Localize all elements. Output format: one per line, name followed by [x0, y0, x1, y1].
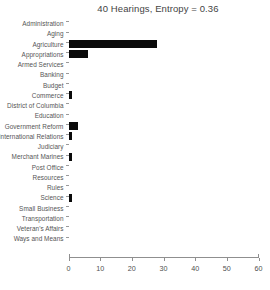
x-axis-tick: [195, 258, 196, 261]
bar: [69, 153, 72, 161]
x-axis-tick: [227, 258, 228, 261]
category-label: Appropriations: [22, 50, 64, 60]
category-tick: [66, 114, 69, 115]
x-axis-tick: [259, 258, 260, 261]
bar: [69, 40, 158, 48]
category-label: Commerce: [32, 91, 64, 101]
category-label: Agriculture: [32, 40, 63, 50]
category-label: Government Reform: [5, 122, 64, 132]
bar-row: Agriculture: [0, 40, 270, 50]
bar-row: Transportation: [0, 214, 270, 224]
x-axis-tick-label: 50: [217, 264, 237, 273]
x-axis-tick: [164, 258, 165, 261]
bar-row: Budget: [0, 81, 270, 91]
chart-title: 40 Hearings, Entropy = 0.36: [0, 3, 270, 14]
category-tick: [66, 144, 69, 145]
bar-row: Judiciary: [0, 142, 270, 152]
category-tick: [66, 32, 69, 33]
category-tick: [66, 216, 69, 217]
bar-row: Banking: [0, 70, 270, 80]
bar-row: District of Columbia: [0, 101, 270, 111]
category-label: Budget: [43, 81, 64, 91]
category-tick: [66, 62, 69, 63]
category-tick: [66, 226, 69, 227]
bar: [69, 132, 72, 140]
category-label: Administration: [22, 19, 63, 29]
category-label: Ways and Means: [14, 234, 64, 244]
bar-row: Administration: [0, 19, 270, 29]
category-label: Armed Services: [18, 60, 64, 70]
bar-row: Post Office: [0, 163, 270, 173]
category-label: Transportation: [22, 214, 64, 224]
category-label: Banking: [40, 70, 63, 80]
bar: [69, 122, 79, 130]
category-label: Rules: [47, 183, 64, 193]
x-axis-tick-label: 20: [122, 264, 142, 273]
category-label: Aging: [47, 29, 64, 39]
bar: [69, 194, 72, 202]
category-label: Post Office: [32, 163, 64, 173]
bar-row: Commerce: [0, 91, 270, 101]
bar-row: Rules: [0, 183, 270, 193]
plot-area: AdministrationAgingAgricultureAppropriat…: [0, 18, 270, 256]
bar-row: Veteran's Affairs: [0, 224, 270, 234]
x-axis-tick-label: 40: [185, 264, 205, 273]
category-tick: [66, 165, 69, 166]
bar-row: Small Business: [0, 204, 270, 214]
bar-row: International Relations: [0, 132, 270, 142]
category-label: District of Columbia: [7, 101, 63, 111]
bar-row: Appropriations: [0, 50, 270, 60]
x-axis-tick: [132, 258, 133, 261]
category-tick: [66, 175, 69, 176]
x-axis-tick: [100, 258, 101, 261]
category-tick: [66, 237, 69, 238]
x-axis-tick-label: 60: [249, 264, 269, 273]
category-tick: [66, 83, 69, 84]
category-tick: [66, 21, 69, 22]
x-axis-tick-label: 30: [154, 264, 174, 273]
x-axis-tick-label: 10: [90, 264, 110, 273]
x-axis-tick-label: 0: [59, 264, 79, 273]
bar-row: Armed Services: [0, 60, 270, 70]
category-label: Small Business: [19, 204, 63, 214]
bar-row: Resources: [0, 173, 270, 183]
bar-row: Aging: [0, 29, 270, 39]
category-tick: [66, 206, 69, 207]
category-label: Science: [40, 193, 63, 203]
bar-row: Merchant Marines: [0, 152, 270, 162]
bar-chart: 40 Hearings, Entropy = 0.36 Administrati…: [0, 0, 270, 290]
category-tick: [66, 73, 69, 74]
bar-row: Government Reform: [0, 122, 270, 132]
x-axis: 0102030405060: [0, 257, 270, 290]
bar-row: Ways and Means: [0, 234, 270, 244]
category-label: Resources: [33, 173, 64, 183]
bar: [69, 50, 88, 58]
bar: [69, 91, 72, 99]
category-label: Veteran's Affairs: [17, 224, 64, 234]
category-label: Education: [35, 111, 64, 121]
category-tick: [66, 103, 69, 104]
bar-row: Science: [0, 193, 270, 203]
category-tick: [66, 185, 69, 186]
category-label: Merchant Marines: [12, 152, 64, 162]
x-axis-tick: [69, 258, 70, 261]
category-label: Judiciary: [38, 142, 64, 152]
bar-row: Education: [0, 111, 270, 121]
category-label: International Relations: [0, 132, 64, 142]
